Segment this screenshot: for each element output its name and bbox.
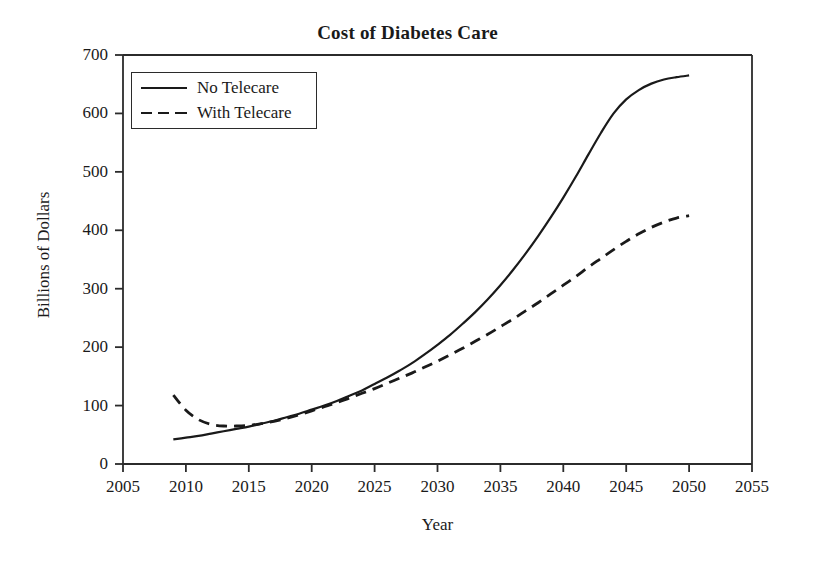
x-tick-label: 2030 <box>403 478 473 495</box>
chart-figure: Cost of Diabetes Care Billions of Dollar… <box>0 0 815 565</box>
chart-legend: No Telecare With Telecare <box>131 72 317 129</box>
x-tick-label: 2025 <box>340 478 410 495</box>
legend-label: With Telecare <box>197 103 292 123</box>
legend-line-solid-icon <box>141 82 187 94</box>
x-tick-label: 2055 <box>717 478 787 495</box>
x-tick-label: 2035 <box>465 478 535 495</box>
x-tick-label: 2020 <box>277 478 347 495</box>
legend-item-with-telecare: With Telecare <box>141 101 292 125</box>
x-tick-label: 2010 <box>151 478 221 495</box>
x-tick-label: 2040 <box>528 478 598 495</box>
x-tick-label: 2015 <box>214 478 284 495</box>
legend-label: No Telecare <box>197 78 279 98</box>
legend-line-dashed-icon <box>141 107 187 119</box>
x-tick-label: 2050 <box>654 478 724 495</box>
x-tick-label: 2045 <box>591 478 661 495</box>
x-axis-tick-labels: 2005201020152020202520302035204020452050… <box>0 0 815 565</box>
legend-item-no-telecare: No Telecare <box>141 76 279 100</box>
x-tick-label: 2005 <box>88 478 158 495</box>
